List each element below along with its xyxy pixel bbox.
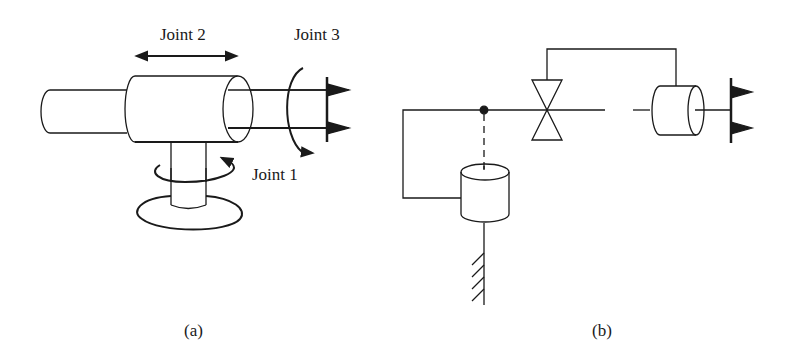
junction-dot	[480, 106, 488, 114]
top-wire	[547, 49, 676, 86]
figure-a	[41, 56, 349, 230]
gripper-b	[731, 78, 752, 143]
prismatic-joint-cylinder	[125, 76, 253, 142]
left-rod-cylinder	[41, 90, 127, 133]
base-plate	[137, 196, 242, 230]
ground-symbol	[472, 223, 484, 305]
gripper-a	[327, 77, 349, 142]
caption-b: (b)	[592, 321, 612, 340]
figure-b	[403, 49, 752, 305]
joint3-label: Joint 3	[294, 25, 340, 44]
robot-joint-diagram: Joint 2 Joint 3 Joint 1 (a)	[0, 0, 788, 359]
joint3-rotation-arrow	[287, 68, 312, 153]
left-loop-wire	[403, 110, 605, 198]
caption-a: (a)	[184, 321, 203, 340]
revolute-joint-symbol	[461, 164, 509, 222]
joint1-label: Joint 1	[252, 165, 298, 184]
joint2-label: Joint 2	[160, 25, 206, 44]
